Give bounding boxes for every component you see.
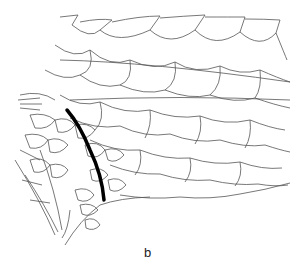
panel-label: b	[144, 246, 151, 259]
scale-pattern-drawing	[0, 0, 304, 271]
